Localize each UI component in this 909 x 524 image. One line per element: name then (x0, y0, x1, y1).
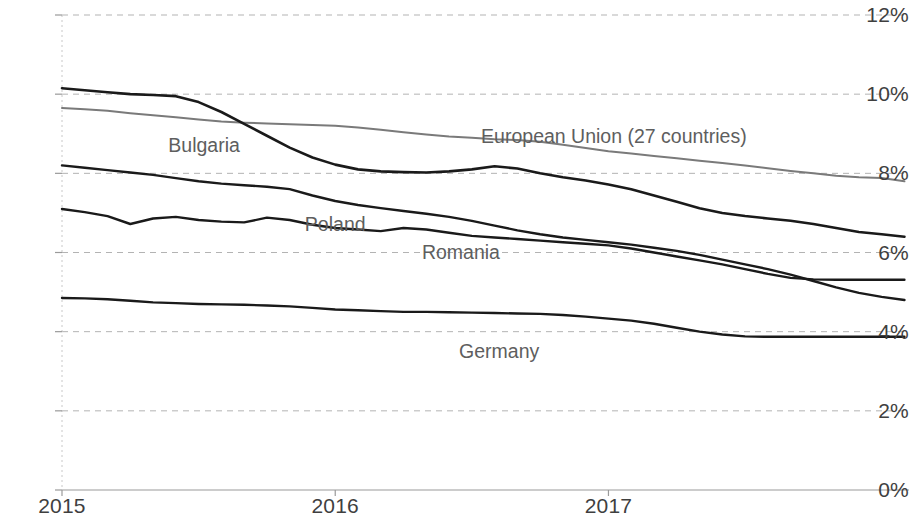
x-axis-tick-label: 2017 (585, 494, 633, 518)
series-label: Romania (422, 240, 500, 263)
series-label: Poland (305, 213, 366, 236)
series-label: Bulgaria (168, 133, 240, 156)
series-label: European Union (27 countries) (481, 124, 747, 147)
series-line (62, 298, 904, 337)
line-chart: 12%10%8%6%4%2%0% 201520162017 European U… (0, 0, 909, 524)
y-axis-tick-label: 10% (855, 82, 909, 106)
y-axis-tick-label: 2% (855, 399, 909, 423)
y-axis-tick-label: 4% (855, 320, 909, 344)
y-axis-tick-label: 8% (855, 161, 909, 185)
x-axis-tick-label: 2015 (38, 494, 86, 518)
series-line (62, 88, 904, 236)
x-axis-tick-label: 2016 (311, 494, 359, 518)
y-axis-tick-label: 0% (855, 478, 909, 502)
y-axis-tick-label: 12% (855, 3, 909, 27)
y-axis-tick-label: 6% (855, 241, 909, 265)
series-label: Germany (459, 340, 539, 363)
series-line (62, 165, 904, 300)
